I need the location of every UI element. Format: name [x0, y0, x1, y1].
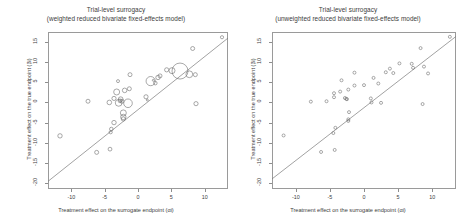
data-point-circle [339, 90, 342, 93]
data-point-circle [412, 66, 415, 69]
y-axis-tick [269, 163, 272, 164]
data-point-circle [333, 96, 336, 99]
data-point-circle [419, 47, 422, 50]
y-axis-tick-label: 10 [256, 53, 262, 69]
data-point-circle [384, 71, 387, 74]
data-point-circle [193, 73, 197, 77]
panel-left-y-axis-title: Treatment effect on the true endpoint (β… [26, 39, 32, 179]
panel-left-title-line1: Trial-level surrogacy [0, 6, 232, 15]
x-axis-tick [330, 189, 331, 192]
x-axis-tick [398, 189, 399, 192]
y-axis-tick [45, 102, 48, 103]
data-point-circle [421, 103, 424, 106]
y-axis-tick [45, 62, 48, 63]
y-axis-tick [45, 42, 48, 43]
data-point-circle [110, 127, 114, 131]
data-point-circle [372, 76, 375, 79]
data-point-circle [388, 67, 391, 70]
regression-line [272, 36, 456, 179]
x-axis-tick [205, 189, 206, 192]
data-point-circle [191, 47, 195, 51]
y-axis-tick [269, 123, 272, 124]
data-point-circle [325, 100, 328, 103]
data-point-circle [334, 126, 337, 129]
data-point-circle [146, 99, 148, 101]
y-axis-tick-label: 5 [32, 73, 38, 89]
x-axis-tick-label: 0 [128, 194, 148, 200]
y-axis-tick-label: -20 [256, 174, 262, 190]
data-point-circle [152, 79, 154, 81]
y-axis-tick-label: -10 [256, 134, 262, 150]
data-point-circle [363, 84, 366, 87]
data-point-circle [108, 147, 112, 151]
y-axis-tick [45, 82, 48, 83]
y-axis-tick-label: 15 [256, 33, 262, 49]
x-axis-tick [432, 189, 433, 192]
panel-right-data-layer [272, 32, 456, 189]
y-axis-tick [45, 163, 48, 164]
y-axis-tick-label: -15 [32, 154, 38, 170]
figure-trial-level-surrogacy: Trial-level surrogacy (weighted reduced … [0, 0, 464, 224]
data-point-circle [377, 82, 380, 85]
y-axis-tick-label: -20 [32, 174, 38, 190]
x-axis-tick-label: 0 [354, 194, 374, 200]
panel-left-title-line2: (weighted reduced bivariate fixed-effect… [0, 15, 232, 24]
data-point-circle [58, 134, 62, 138]
data-point-circle [333, 92, 336, 95]
y-axis-tick-label: 10 [32, 53, 38, 69]
data-point-circle [333, 148, 336, 151]
data-point-circle [398, 62, 401, 65]
data-point-circle [392, 72, 395, 75]
y-axis-tick [269, 82, 272, 83]
data-point-circle [309, 100, 312, 103]
y-axis-tick-label: 5 [256, 73, 262, 89]
data-point-circle [107, 100, 112, 105]
y-axis-tick [269, 42, 272, 43]
y-axis-tick-label: -5 [256, 114, 262, 130]
panel-left-data-layer [48, 32, 228, 189]
data-point-circle [144, 95, 148, 99]
y-axis-tick-label: -15 [256, 154, 262, 170]
data-point-circle [448, 35, 451, 38]
x-axis-tick-label: -5 [95, 194, 115, 200]
data-point-circle [422, 65, 425, 68]
x-axis-tick-label: -10 [286, 194, 306, 200]
data-point-circle [347, 88, 350, 91]
regression-line [48, 38, 228, 181]
x-axis-tick-label: 5 [161, 194, 181, 200]
data-point-circle [122, 88, 127, 93]
x-axis-tick-label: -10 [61, 194, 81, 200]
data-point-circle [332, 132, 335, 135]
x-axis-tick-label: 10 [195, 194, 215, 200]
panel-right-title-line1: Trial-level surrogacy [232, 6, 464, 15]
data-point-circle [427, 72, 430, 75]
data-point-circle [194, 102, 198, 106]
x-axis-tick-label: 5 [388, 194, 408, 200]
panel-right-y-axis-title: Treatment effect on the true endpoint (β… [250, 39, 256, 179]
panel-left-x-axis-title: Treatment effect on the surrogate endpoi… [0, 207, 232, 213]
panel-right-title-line2: (unweighted reduced bivariate fixed-effe… [232, 15, 464, 24]
x-axis-tick-label: -5 [320, 194, 340, 200]
data-point-circle [410, 62, 413, 65]
data-point-circle [340, 79, 343, 82]
y-axis-tick-label: -5 [32, 114, 38, 130]
data-point-circle [353, 84, 356, 87]
x-axis-tick [105, 189, 106, 192]
y-axis-tick-label: 15 [32, 33, 38, 49]
y-axis-tick-label: 0 [256, 93, 262, 109]
data-point-circle [124, 99, 133, 108]
x-axis-tick-label: 10 [422, 194, 442, 200]
y-axis-tick [45, 143, 48, 144]
data-point-circle [117, 80, 120, 83]
x-axis-tick [364, 189, 365, 192]
data-point-circle [95, 150, 99, 154]
y-axis-tick [269, 183, 272, 184]
data-point-circle [186, 71, 193, 78]
y-axis-tick [45, 183, 48, 184]
x-axis-tick [71, 189, 72, 192]
data-point-circle [128, 73, 132, 77]
data-point-circle [348, 111, 351, 114]
y-axis-tick [269, 62, 272, 63]
panel-right-x-axis-title: Treatment effect on the surrogate endpoi… [232, 207, 464, 213]
y-axis-tick-label: -10 [32, 134, 38, 150]
